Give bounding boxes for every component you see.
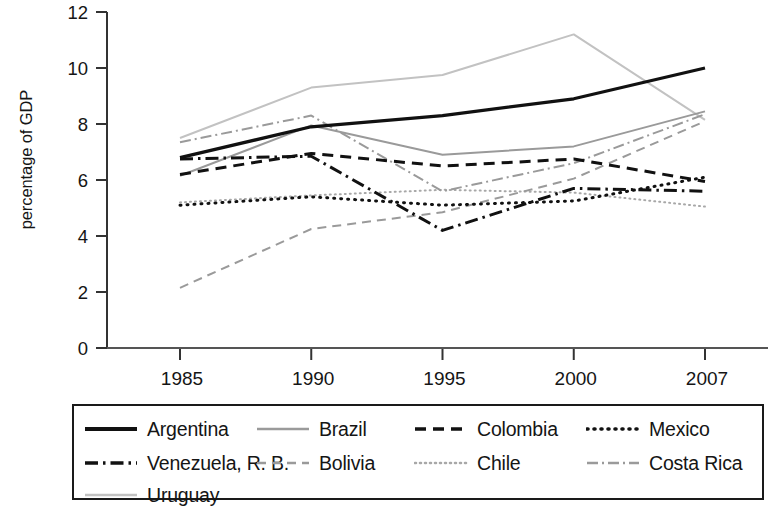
chart-plot-area: 024681012 19851990199520002007 percentag… bbox=[0, 0, 774, 396]
y-tick-label: 6 bbox=[78, 170, 88, 191]
y-tick-label: 12 bbox=[67, 2, 88, 23]
legend-swatch-icon bbox=[84, 422, 138, 436]
legend-swatch-icon bbox=[256, 422, 310, 436]
chart-legend: ArgentinaBrazilColombiaMexicoVenezuela, … bbox=[72, 404, 764, 500]
legend-swatch-icon bbox=[84, 488, 138, 502]
legend-label: Colombia bbox=[477, 418, 558, 441]
legend-item-argentina[interactable]: Argentina bbox=[84, 416, 229, 442]
chart-page: 024681012 19851990199520002007 percentag… bbox=[0, 0, 774, 506]
legend-label: Argentina bbox=[147, 418, 229, 441]
x-axis-ticks: 19851990199520002007 bbox=[161, 348, 728, 389]
data-series-group bbox=[180, 34, 705, 287]
legend-label: Brazil bbox=[319, 418, 367, 441]
legend-swatch-icon bbox=[414, 422, 468, 436]
x-tick-label: 1995 bbox=[423, 368, 465, 389]
legend-swatch-icon bbox=[414, 456, 468, 470]
series-line-costa-rica bbox=[180, 114, 705, 191]
legend-label: Bolivia bbox=[319, 452, 375, 475]
legend-label: Costa Rica bbox=[649, 452, 742, 475]
legend-item-chile[interactable]: Chile bbox=[414, 450, 520, 476]
x-tick-label: 1985 bbox=[161, 368, 203, 389]
y-tick-label: 0 bbox=[78, 338, 88, 359]
legend-item-uruguay[interactable]: Uruguay bbox=[84, 482, 219, 506]
legend-item-costa-rica[interactable]: Costa Rica bbox=[586, 450, 742, 476]
legend-swatch-icon bbox=[256, 456, 310, 470]
y-tick-label: 8 bbox=[78, 114, 88, 135]
y-tick-label: 4 bbox=[78, 226, 88, 247]
series-line-brazil bbox=[180, 111, 705, 175]
y-axis-label: percentage of GDP bbox=[17, 80, 36, 240]
series-line-argentina bbox=[180, 68, 705, 158]
series-line-mexico bbox=[180, 177, 705, 205]
line-chart: 024681012 19851990199520002007 bbox=[0, 0, 774, 396]
legend-swatch-icon bbox=[586, 456, 640, 470]
legend-item-brazil[interactable]: Brazil bbox=[256, 416, 367, 442]
legend-label: Chile bbox=[477, 452, 520, 475]
legend-swatch-icon bbox=[84, 456, 138, 470]
legend-item-mexico[interactable]: Mexico bbox=[586, 416, 710, 442]
legend-item-colombia[interactable]: Colombia bbox=[414, 416, 558, 442]
x-tick-label: 2007 bbox=[686, 368, 728, 389]
legend-label: Mexico bbox=[649, 418, 710, 441]
y-tick-label: 10 bbox=[67, 58, 88, 79]
legend-label: Uruguay bbox=[147, 484, 219, 506]
legend-grid: ArgentinaBrazilColombiaMexicoVenezuela, … bbox=[74, 406, 762, 498]
y-tick-label: 2 bbox=[78, 282, 88, 303]
x-tick-label: 2000 bbox=[555, 368, 597, 389]
y-axis-ticks: 024681012 bbox=[67, 2, 107, 359]
legend-swatch-icon bbox=[586, 422, 640, 436]
series-line-venezuela-r-b bbox=[180, 156, 705, 230]
x-tick-label: 1990 bbox=[292, 368, 334, 389]
legend-item-bolivia[interactable]: Bolivia bbox=[256, 450, 375, 476]
